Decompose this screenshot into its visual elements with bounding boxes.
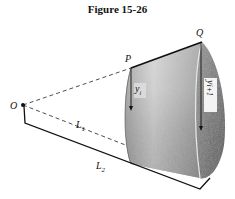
point-p-label: P <box>124 53 131 64</box>
height-i-plus-1-label: yi+1 <box>205 79 216 96</box>
length-1-label: L1 <box>75 119 85 133</box>
frustum-diagram: O P Q yi yi+1 L1 L2 <box>0 0 235 199</box>
point-q-label: Q <box>196 27 204 38</box>
length-2-label: L2 <box>95 160 106 174</box>
slant-extension-dashed <box>23 68 131 105</box>
origin-point <box>21 103 25 107</box>
origin-label: O <box>10 100 17 111</box>
